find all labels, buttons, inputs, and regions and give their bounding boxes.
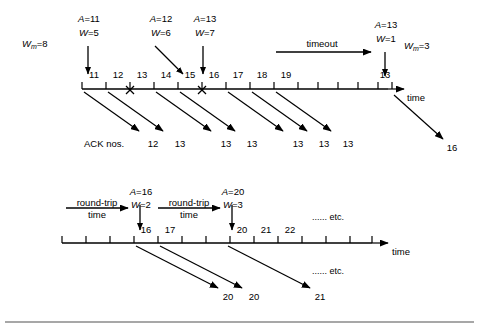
wm-initial-label: Wm=8 [22,38,48,52]
timeout-label: timeout [306,38,337,49]
final-ack-number: 16 [447,142,458,153]
bottom-timeline-axis [62,236,388,243]
rtt-label-1-line2: time [88,209,106,220]
tcp-sliding-window-figure: Wm=8 A=11 W=5 A=12 W=6 A=13 W=7 A=13 W=1… [0,0,479,332]
bottom-event-1-a-label: A=16 [130,186,152,197]
event-4-a-label: A=13 [375,19,397,30]
ack-number: 13 [247,138,258,149]
wm-after-timeout-label: Wm=3 [404,40,430,54]
rtt-label-1-line1: round-trip [77,197,118,208]
segment-number: 22 [285,224,296,235]
event-3-a-label: A=13 [194,13,216,24]
bottom-event-2-a-label: A=20 [222,186,244,197]
event-4-w-label: W=1 [376,33,396,44]
segment-number: 18 [257,69,268,80]
segment-number: 15 [185,69,196,80]
segment-number: 21 [261,224,272,235]
segment-number: 19 [281,69,292,80]
bottom-ack-number: 20 [249,291,260,302]
rtt-label-2-line1: round-trip [169,197,210,208]
segment-number: 16 [141,224,152,235]
bottom-event-1-w-label: W=2 [131,199,151,210]
event-1-w-label: W=5 [79,27,99,38]
lost-segment-markers [126,86,206,94]
segment-number: 17 [165,224,176,235]
segment-number: 12 [113,69,124,80]
ack-number: 13 [343,138,354,149]
top-timeline-axis [82,82,404,89]
ack-number: 13 [293,138,304,149]
event-2-a-label: A=12 [150,13,172,24]
bottom-ack-number: 20 [223,291,234,302]
ack-number: 13 [175,138,186,149]
top-ack-arrows [84,92,443,139]
bottom-event-2-w-label: W=3 [223,199,243,210]
retransmit-number: 13 [380,69,391,80]
ack-caption: ACK nos. [84,138,124,149]
bottom-axis-time-label: time [392,246,410,257]
etc-label-bottom: ...... etc. [312,266,344,277]
etc-label-top: ...... etc. [312,212,344,223]
event-3-w-label: W=7 [195,27,215,38]
segment-number: 16 [209,69,220,80]
segment-number: 14 [161,69,172,80]
bottom-ack-arrows [136,246,310,288]
bottom-ack-number: 21 [315,291,326,302]
ack-number: 13 [221,138,232,149]
segment-number: 11 [89,69,99,80]
segment-number: 17 [233,69,244,80]
event-2-w-label: W=6 [151,27,171,38]
top-axis-time-label: time [407,92,425,103]
ack-number: 13 [319,138,330,149]
rtt-label-2-line2: time [180,209,198,220]
event-1-a-label: A=11 [78,13,100,24]
ack-number: 12 [148,138,159,149]
segment-number: 20 [237,224,248,235]
segment-number: 13 [137,69,148,80]
